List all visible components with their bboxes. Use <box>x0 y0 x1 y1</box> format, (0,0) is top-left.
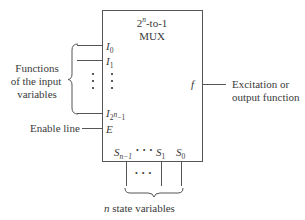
pin-f: f <box>191 78 194 90</box>
state-brace <box>125 188 183 197</box>
state-variables-label: n state variables <box>104 202 175 214</box>
pin-sn1: Sn−1 <box>114 146 132 158</box>
mux-title-line1: 2n-to-1 <box>122 17 182 29</box>
functions-label-3: variables <box>8 88 66 100</box>
functions-label-1: Functions <box>8 62 66 74</box>
excitation-label-2: output function <box>232 91 300 103</box>
inputs-brace <box>68 44 78 114</box>
functions-label-2: of the input <box>4 75 68 87</box>
pin-s1: S1 <box>156 146 165 158</box>
enable-line-label: Enable line <box>30 122 80 134</box>
excitation-label-1: Excitation or <box>232 78 289 90</box>
select-dots-top: • • • <box>136 145 153 157</box>
mux-diagram: 2n-to-1 MUX I0 I1 I2n−1 E f Sn−1 • • • S… <box>0 0 305 220</box>
select-dots-bottom: • • • <box>135 168 152 180</box>
pin-s0: S0 <box>176 146 185 158</box>
pin-ilast: I2n−1 <box>106 107 125 119</box>
mux-title-line2: MUX <box>122 30 182 42</box>
pin-enable: E <box>106 123 113 135</box>
pin-i0: I0 <box>106 40 113 52</box>
pin-i1: I1 <box>106 55 113 67</box>
